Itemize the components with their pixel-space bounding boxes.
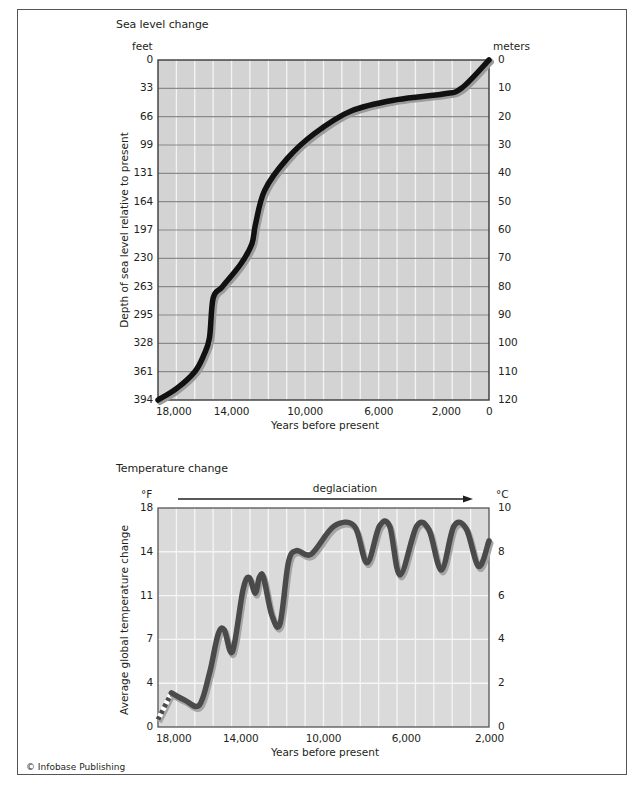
arrow-right-icon xyxy=(463,496,473,503)
copyright-credit: © Infobase Publishing xyxy=(26,762,125,772)
temperature-plot xyxy=(0,0,644,788)
